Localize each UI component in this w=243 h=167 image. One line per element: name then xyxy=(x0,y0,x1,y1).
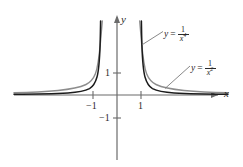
curve-label-equals: = xyxy=(197,64,202,74)
curve-label-denominator: x2 xyxy=(205,69,216,77)
curve-label-one-over-x-fourth: y = 1 x4 xyxy=(164,26,189,43)
x-tick-label-one: 1 xyxy=(138,101,143,111)
denominator-exponent: 4 xyxy=(183,32,186,38)
curve-label-fraction: 1 x4 xyxy=(178,26,189,43)
curve-one-over-x-fourth xyxy=(14,21,228,94)
curve-label-denominator: x4 xyxy=(178,35,189,43)
leader-line-x-fourth xyxy=(143,32,164,45)
graph-canvas xyxy=(0,0,243,167)
y-axis-label: y xyxy=(121,14,126,25)
curve-label-lhs: y xyxy=(164,30,168,40)
denominator-exponent: 2 xyxy=(210,66,213,72)
leader-line-x-squared xyxy=(165,66,190,89)
y-tick-label-one: 1 xyxy=(105,68,110,78)
math-figure: y x −1 1 1 −1 y = 1 x4 y = 1 x2 xyxy=(0,0,243,167)
y-tick-label-minus-one: −1 xyxy=(99,113,110,123)
curve-label-fraction: 1 x2 xyxy=(205,60,216,77)
curve-label-lhs: y xyxy=(191,64,195,74)
y-axis xyxy=(114,15,120,160)
curve-one-over-x-squared xyxy=(14,21,228,93)
curve-label-one-over-x-squared: y = 1 x2 xyxy=(191,60,216,77)
curve-label-equals: = xyxy=(170,30,175,40)
x-tick-label-minus-one: −1 xyxy=(86,101,97,111)
x-axis-label: x xyxy=(224,88,229,99)
